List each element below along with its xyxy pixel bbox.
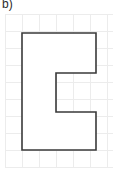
figure-panel: b) [0,0,118,175]
shape-on-grid-diagram [0,0,118,175]
block-letter-c-shape [22,33,96,150]
